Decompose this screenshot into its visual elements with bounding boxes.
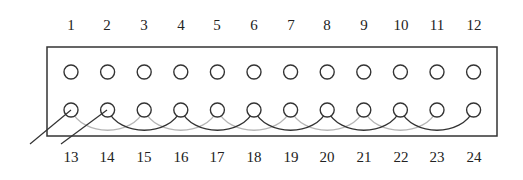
pin-label-23: 23 (422, 148, 452, 166)
pin-label-18: 18 (239, 148, 269, 166)
pin-9 (357, 65, 371, 79)
pin-20 (320, 103, 334, 117)
connector-diagram: 1 2 3 4 5 6 7 8 9 10 11 12 13 14 15 16 1… (0, 0, 523, 180)
pin-label-1: 1 (56, 16, 86, 34)
pin-12 (467, 65, 481, 79)
pin-label-11: 11 (422, 16, 452, 34)
pin-1 (64, 65, 78, 79)
pin-15 (137, 103, 151, 117)
pin-7 (284, 65, 298, 79)
pin-17 (210, 103, 224, 117)
pin-8 (320, 65, 334, 79)
pin-label-4: 4 (166, 16, 196, 34)
pin-label-12: 12 (459, 16, 489, 34)
pin-label-8: 8 (312, 16, 342, 34)
pin-23 (430, 103, 444, 117)
pin-16 (174, 103, 188, 117)
pin-label-17: 17 (202, 148, 232, 166)
pin-label-15: 15 (129, 148, 159, 166)
pin-label-20: 20 (312, 148, 342, 166)
pin-label-13: 13 (56, 148, 86, 166)
pin-label-3: 3 (129, 16, 159, 34)
pin-label-7: 7 (276, 16, 306, 34)
pin-2 (101, 65, 115, 79)
pin-5 (210, 65, 224, 79)
pin-label-10: 10 (386, 16, 416, 34)
pin-label-5: 5 (202, 16, 232, 34)
pin-21 (357, 103, 371, 117)
pin-label-21: 21 (349, 148, 379, 166)
pin-label-22: 22 (386, 148, 416, 166)
pins (64, 65, 481, 117)
pin-11 (430, 65, 444, 79)
pin-label-6: 6 (239, 16, 269, 34)
pin-label-2: 2 (92, 16, 122, 34)
pin-14 (101, 103, 115, 117)
pin-10 (393, 65, 407, 79)
pin-3 (137, 65, 151, 79)
pin-label-19: 19 (276, 148, 306, 166)
pin-label-14: 14 (92, 148, 122, 166)
pin-24 (467, 103, 481, 117)
lead-wire-13 (30, 110, 71, 144)
pin-label-24: 24 (459, 148, 489, 166)
pin-label-16: 16 (166, 148, 196, 166)
pin-19 (284, 103, 298, 117)
pin-6 (247, 65, 261, 79)
pin-label-9: 9 (349, 16, 379, 34)
pin-22 (393, 103, 407, 117)
pin-4 (174, 65, 188, 79)
connector-housing (47, 47, 497, 136)
pin-18 (247, 103, 261, 117)
